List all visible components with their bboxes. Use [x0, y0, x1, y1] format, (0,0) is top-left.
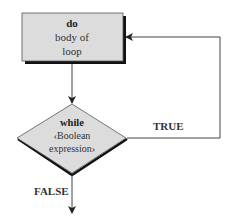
while-keyword: while — [60, 117, 84, 128]
do-keyword: do — [66, 17, 78, 29]
true-label: TRUE — [153, 120, 184, 132]
flowchart: do body of loop while ‹Boolean expressio… — [0, 0, 233, 223]
decision-line-2: expression› — [49, 143, 95, 154]
process-line-2: loop — [62, 45, 82, 57]
decision-line-1: ‹Boolean — [54, 130, 91, 141]
process-line-1: body of — [55, 31, 89, 43]
false-label: FALSE — [34, 185, 69, 197]
